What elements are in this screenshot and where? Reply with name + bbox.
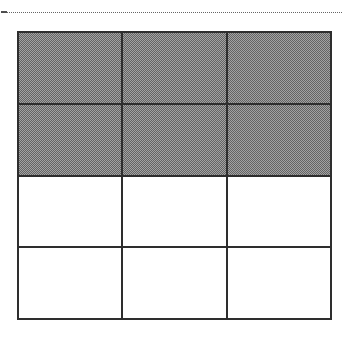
grid-row: [18, 32, 331, 104]
grid-cell-r1c1: [18, 32, 122, 104]
grid-cell-r2c2: [122, 104, 226, 176]
grid-cell-label: [19, 33, 121, 103]
grid-cell-label: [228, 248, 330, 318]
grid-cell-label: [123, 33, 225, 103]
grid-cell-r1c2: [122, 32, 226, 104]
grid-row: [18, 104, 331, 176]
top-dotted-separator-rule: [1, 12, 342, 13]
grid-cell-r4c2: [122, 247, 226, 319]
grid-cell-r4c1: [18, 247, 122, 319]
grid-cell-label: [19, 105, 121, 175]
grid-cell-label: [123, 248, 225, 318]
grid-cell-label: [19, 248, 121, 318]
grid-cell-label: [19, 177, 121, 247]
grid-cell-label: [228, 105, 330, 175]
fraction-grid-table: [17, 31, 332, 320]
fraction-grid-body: [18, 32, 331, 319]
grid-cell-r2c1: [18, 104, 122, 176]
grid-cell-r3c3: [227, 176, 331, 248]
fraction-grid-figure: [17, 31, 332, 320]
grid-row: [18, 247, 331, 319]
grid-cell-r3c1: [18, 176, 122, 248]
grid-row: [18, 176, 331, 248]
grid-cell-r2c3: [227, 104, 331, 176]
grid-cell-label: [228, 33, 330, 103]
grid-cell-r1c3: [227, 32, 331, 104]
grid-cell-label: [228, 177, 330, 247]
grid-cell-label: [123, 177, 225, 247]
grid-cell-r3c2: [122, 176, 226, 248]
page-root: [0, 0, 345, 339]
grid-cell-label: [123, 105, 225, 175]
grid-cell-r4c3: [227, 247, 331, 319]
